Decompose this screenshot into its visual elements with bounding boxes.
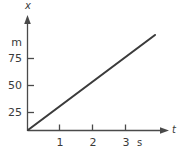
position-time-graph: x m 75 50 25 1 2 3 s t: [0, 0, 184, 160]
y-axis-label: x: [25, 1, 31, 11]
y-tick-label-50: 50: [0, 80, 22, 91]
data-line-position: [28, 35, 155, 130]
y-tick-label-25: 25: [0, 107, 22, 118]
y-axis-arrow-icon: [24, 15, 31, 24]
x-axis-label: t: [172, 125, 176, 135]
x-tick-label-2: 2: [86, 137, 100, 148]
x-axis-arrow-icon: [160, 127, 169, 134]
y-axis-unit-label: m: [0, 37, 22, 48]
x-axis-unit-label: s: [137, 138, 142, 148]
x-tick-label-3: 3: [119, 137, 133, 148]
y-tick-label-75: 75: [0, 53, 22, 64]
x-tick-label-1: 1: [53, 137, 67, 148]
